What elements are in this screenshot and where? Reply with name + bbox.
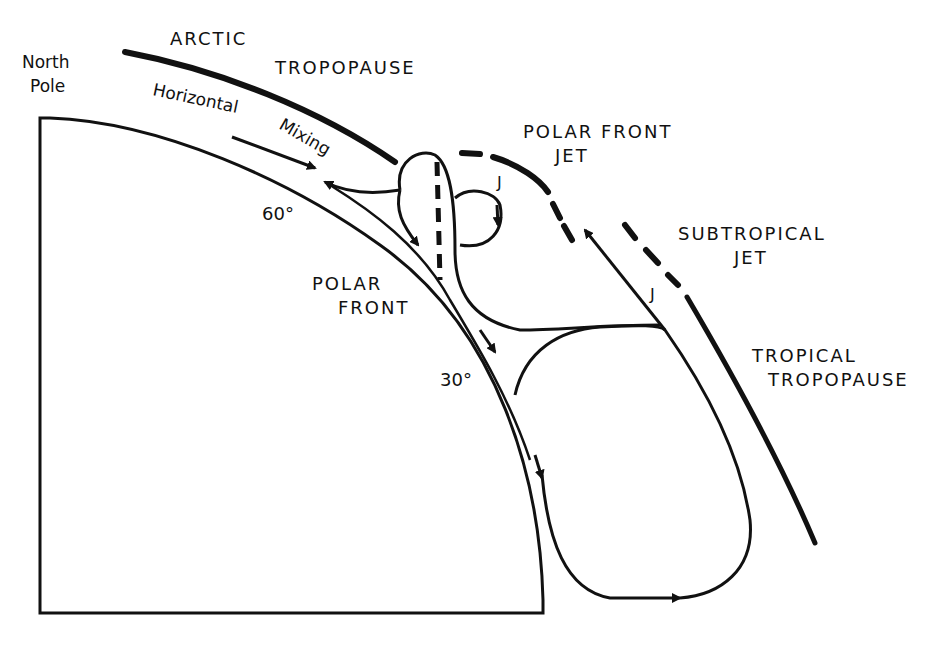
polar-front-label-2: FRONT	[338, 297, 410, 318]
tropical-tropopause-label: TROPICAL	[751, 345, 857, 366]
hadley-cell-loop	[515, 326, 750, 598]
polar-front-dashed-line	[437, 162, 440, 280]
hadley-bottom-flow	[542, 475, 680, 598]
surface-arrow-2	[535, 455, 542, 478]
polar-front-label: POLAR	[312, 273, 382, 294]
tropical-tropopause-line	[687, 297, 815, 543]
arctic-tropopause-label: TROPOPAUSE	[274, 57, 416, 78]
north-pole-label: North	[22, 52, 70, 72]
subtropical-jet-label: SUBTROPICAL	[678, 223, 826, 244]
polar-cell-loop	[325, 182, 400, 192]
horizontal-label: Horizontal	[151, 79, 240, 117]
polar-jet-loop	[455, 191, 501, 246]
hadley-upper-flow	[585, 230, 665, 330]
tropical-tropopause-label-2: TROPOPAUSE	[767, 369, 909, 390]
arctic-label: ARCTIC	[170, 28, 247, 49]
subtropical-jet-label-2: JET	[733, 247, 768, 268]
polar-jet-loop-arrow	[497, 205, 498, 225]
north-pole-label-2: Pole	[30, 76, 65, 96]
polar-front-jet-label-2: JET	[554, 145, 589, 166]
jet-marker-lower: J	[649, 285, 655, 304]
circulation-diagram: North Pole ARCTIC TROPOPAUSE Horizontal …	[0, 0, 952, 649]
polar-front-jet-tropopause	[462, 153, 572, 240]
lat-60-label: 60°	[262, 203, 294, 224]
lat-30-label: 30°	[440, 369, 472, 390]
polar-front-jet-label: POLAR FRONT	[523, 121, 673, 142]
surface-arrow-1	[480, 330, 495, 352]
jet-marker-upper: J	[496, 173, 502, 192]
subtropical-jet-tropopause	[625, 225, 678, 285]
